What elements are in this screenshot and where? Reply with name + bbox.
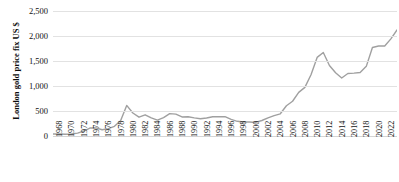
x-axis-tick-labels: 1968197019721974197619781980198219841986… xyxy=(53,137,397,182)
x-axis-tick-label: 1998 xyxy=(240,121,248,137)
x-axis-tick-label: 1968 xyxy=(56,121,64,137)
x-axis-tick-label: 1976 xyxy=(105,121,113,137)
y-axis-tick-label: 2,000 xyxy=(14,32,48,41)
x-axis-tick-label: 1990 xyxy=(191,121,199,137)
x-axis-tick-label: 2000 xyxy=(253,121,261,137)
x-axis-tick-label: 2022 xyxy=(388,121,396,137)
gridline xyxy=(53,111,397,112)
x-axis-tick-label: 2020 xyxy=(376,121,384,137)
gridline xyxy=(53,61,397,62)
x-axis-tick-label: 1984 xyxy=(154,121,162,137)
x-axis-tick-label: 2010 xyxy=(314,121,322,137)
y-axis-tick-label: 1,000 xyxy=(14,82,48,91)
y-axis-tick-labels: 2,5002,0001,5001,0005000 xyxy=(14,0,48,182)
x-axis-tick-label: 1996 xyxy=(228,121,236,137)
x-axis-tick-label: 1978 xyxy=(118,121,126,137)
x-axis-tick-label: 1986 xyxy=(167,121,175,137)
x-axis-tick-label: 1972 xyxy=(81,121,89,137)
x-axis-tick-label: 2004 xyxy=(277,121,285,137)
y-axis-tick-label: 1,500 xyxy=(14,57,48,66)
x-axis-tick-label: 2006 xyxy=(290,121,298,137)
x-axis-tick-label: 2002 xyxy=(265,121,273,137)
x-axis-tick-label: 2008 xyxy=(302,121,310,137)
gridline xyxy=(53,11,397,12)
x-axis-tick-label: 1974 xyxy=(93,121,101,137)
x-axis-tick-label: 1980 xyxy=(130,121,138,137)
x-axis-tick-label: 2014 xyxy=(339,121,347,137)
gridline xyxy=(53,86,397,87)
y-axis-tick-label: 0 xyxy=(14,132,48,141)
x-axis-tick-label: 2016 xyxy=(351,121,359,137)
x-axis-tick-label: 2012 xyxy=(326,121,334,137)
gold-price-series xyxy=(53,11,397,136)
x-axis-tick-label: 1994 xyxy=(216,121,224,137)
x-axis-tick-label: 2018 xyxy=(363,121,371,137)
x-axis-tick-label: 1982 xyxy=(142,121,150,137)
y-axis-tick-label: 500 xyxy=(14,107,48,116)
plot-area xyxy=(53,11,397,136)
x-axis-tick-label: 1970 xyxy=(68,121,76,137)
gold-price-line-chart: London gold price fix US $ 2,5002,0001,5… xyxy=(0,0,399,182)
x-axis-tick-label: 1992 xyxy=(204,121,212,137)
y-axis-tick-label: 2,500 xyxy=(14,7,48,16)
gridline xyxy=(53,36,397,37)
x-axis-tick-label: 1988 xyxy=(179,121,187,137)
